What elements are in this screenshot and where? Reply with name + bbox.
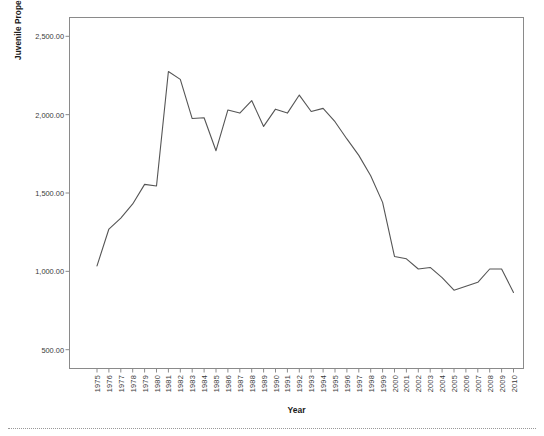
x-tick-label: 1980 [153,375,162,392]
x-tick-label: 1975 [93,375,102,392]
x-tick-label: 2003 [426,375,435,392]
x-tick-marks [97,369,514,373]
x-tick-label: 2000 [391,375,400,392]
plot-area [0,0,544,436]
x-tick-label: 1984 [200,375,209,392]
x-tick-label: 2010 [510,375,519,392]
x-tick-label: 1994 [319,375,328,392]
chart-figure: Juvenile Property Arrest Rate per 100,00… [0,0,544,436]
x-tick-label: 2009 [498,375,507,392]
x-tick-label: 1983 [188,375,197,392]
x-tick-label: 1999 [379,375,388,392]
x-tick-label: 1981 [164,375,173,392]
x-tick-label: 2007 [474,375,483,392]
x-tick-label: 2002 [414,375,423,392]
x-tick-label: 2004 [438,375,447,392]
x-tick-label: 1982 [176,375,185,392]
plot-border [70,18,524,369]
x-tick-label: 1997 [355,375,364,392]
x-tick-label: 2008 [486,375,495,392]
x-tick-label: 1991 [283,375,292,392]
x-tick-label: 1992 [295,375,304,392]
x-tick-label: 1986 [224,375,233,392]
x-tick-label: 1995 [331,375,340,392]
x-tick-label: 1993 [307,375,316,392]
x-tick-label: 1976 [105,375,114,392]
x-tick-label: 1985 [212,375,221,392]
x-axis-title: Year [69,405,524,415]
x-tick-label: 1988 [248,375,257,392]
x-tick-label: 2006 [462,375,471,392]
x-tick-label: 2005 [450,375,459,392]
x-tick-label: 1990 [272,375,281,392]
x-tick-label: 1989 [260,375,269,392]
x-tick-label: 1998 [367,375,376,392]
x-tick-label: 1977 [117,375,126,392]
footer-divider [8,428,536,429]
data-series-line [97,72,514,293]
y-tick-marks [66,36,70,349]
x-tick-label: 1978 [129,375,138,392]
x-tick-label: 2001 [402,375,411,392]
x-tick-label: 1987 [236,375,245,392]
x-tick-label: 1979 [141,375,150,392]
x-tick-label: 1996 [343,375,352,392]
